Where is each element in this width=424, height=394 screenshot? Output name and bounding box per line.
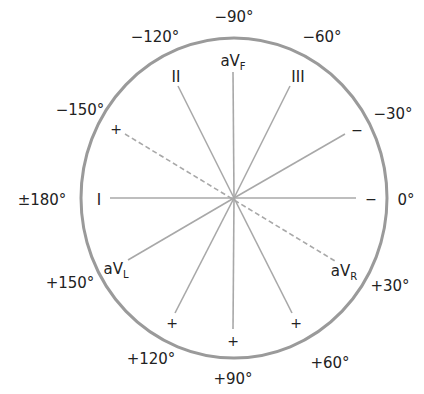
minus-marker-avl: − xyxy=(351,122,363,138)
plus-marker-avf: + xyxy=(227,333,239,349)
degree-label-plus120: +120° xyxy=(127,350,176,368)
lead-label-i: I xyxy=(97,191,101,209)
lead-label-avl: aVL xyxy=(103,260,128,280)
degree-label-plus30: +30° xyxy=(370,277,409,295)
minus-marker-lead-i: − xyxy=(365,191,377,207)
plus-marker-avr: + xyxy=(110,121,122,137)
lead-label-avr: aVR xyxy=(331,262,357,282)
lead-label-avf: aVF xyxy=(220,52,245,72)
lead-label-ii: II xyxy=(172,68,181,86)
degree-label-minus60: −60° xyxy=(302,28,341,46)
degree-label-minus30: −30° xyxy=(373,105,412,123)
lead-ii-axis-bottom xyxy=(234,198,292,313)
plus-marker-lead-iii: + xyxy=(166,315,178,331)
degree-label-minus150: −150° xyxy=(56,101,105,119)
lead-label-iii: III xyxy=(291,68,304,86)
degree-label-plus60: +60° xyxy=(310,354,349,372)
degree-label-plus150: +150° xyxy=(46,274,95,292)
lead-avf-axis-top xyxy=(233,72,234,198)
degree-label-plus90: +90° xyxy=(213,370,252,388)
degree-label-minus90: −90° xyxy=(214,8,253,26)
lead-avf-axis-bottom xyxy=(233,198,234,329)
degree-label-minus120: −120° xyxy=(131,28,180,46)
plus-marker-lead-ii: + xyxy=(290,315,302,331)
hexaxial-diagram: −90° −60° −30° 0° +30° +60° +90° +120° +… xyxy=(0,0,424,394)
lead-ii-axis-top xyxy=(178,86,234,198)
degree-label-180: ±180° xyxy=(18,191,67,209)
degree-label-0: 0° xyxy=(397,191,414,209)
